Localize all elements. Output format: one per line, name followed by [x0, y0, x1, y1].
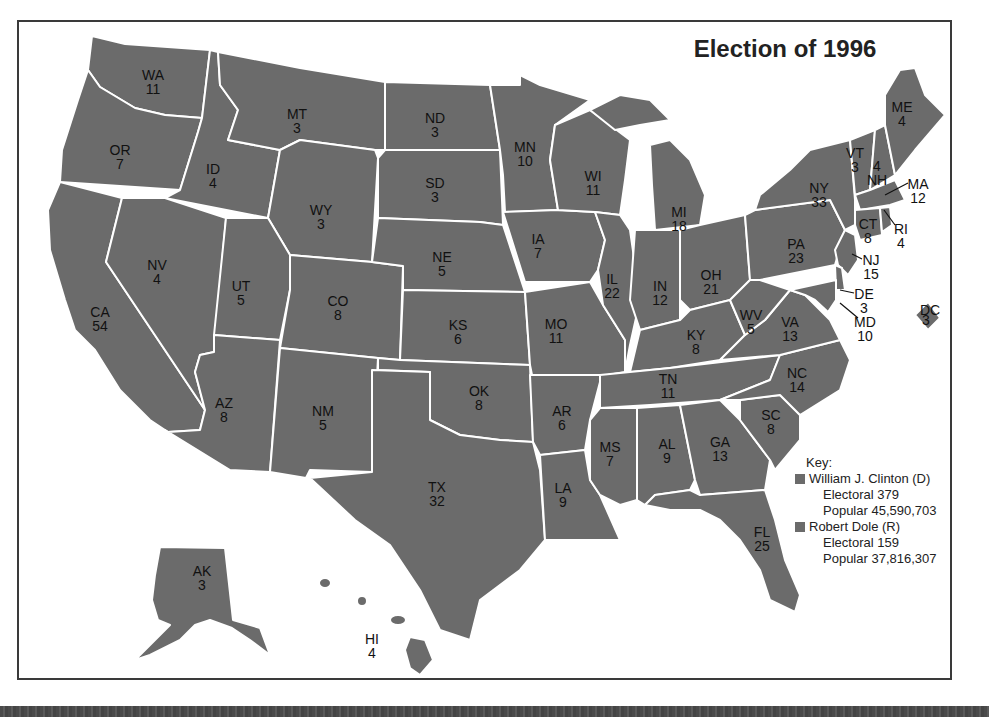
label-AK: AK3 — [193, 564, 212, 592]
state-HI-big-island[interactable] — [405, 637, 433, 675]
label-MI: MI18 — [671, 205, 687, 233]
legend: Key: William J. Clinton (D) Electoral 37… — [795, 455, 936, 567]
label-KS: KS6 — [449, 318, 468, 346]
legend-popular: Popular 45,590,703 — [795, 503, 936, 519]
state-MT[interactable] — [218, 52, 385, 150]
label-NM: NM5 — [312, 404, 334, 432]
label-MA: MA12 — [908, 177, 929, 205]
legend-candidate-name: Robert Dole (R) — [809, 519, 900, 535]
label-VA: VA13 — [781, 315, 799, 343]
label-DC-votes: 3 — [922, 313, 930, 327]
legend-popular: Popular 37,816,307 — [795, 551, 936, 567]
label-OR: OR7 — [110, 143, 131, 171]
legend-electoral: Electoral 379 — [795, 487, 936, 503]
label-IL: IL22 — [604, 272, 620, 300]
label-CO: CO8 — [328, 294, 349, 322]
leader-DE — [840, 290, 854, 293]
label-UT: UT5 — [232, 279, 251, 307]
label-WY: WY3 — [310, 203, 333, 231]
label-GA: GA13 — [710, 435, 730, 463]
state-FL[interactable] — [645, 490, 800, 612]
legend-heading: Key: — [795, 455, 936, 471]
label-ME: ME4 — [892, 100, 913, 128]
label-NV: NV4 — [147, 258, 166, 286]
label-LA: LA9 — [554, 481, 571, 509]
label-WI: WI11 — [584, 169, 601, 197]
state-WY[interactable] — [268, 140, 378, 262]
label-DE: DE3 — [854, 287, 873, 315]
label-NJ: NJ15 — [862, 253, 879, 281]
label-NY: NY33 — [809, 181, 828, 209]
label-ND: ND3 — [425, 111, 445, 139]
label-WA: WA11 — [142, 68, 164, 96]
label-MT: MT3 — [287, 107, 307, 135]
label-NH: 4NH — [867, 159, 887, 187]
dole-swatch-icon — [795, 522, 805, 532]
state-HI-maui[interactable] — [390, 615, 406, 625]
label-AZ: AZ8 — [215, 396, 233, 424]
state-HI-oahu[interactable] — [357, 596, 367, 606]
label-RI: RI4 — [894, 222, 908, 250]
map-title: Election of 1996 — [694, 35, 877, 63]
label-IN: IN12 — [652, 279, 668, 307]
label-ID: ID4 — [206, 162, 220, 190]
us-electoral-map — [0, 0, 989, 717]
label-SD: SD3 — [425, 176, 444, 204]
label-MN: MN10 — [514, 140, 536, 168]
label-WV: WV5 — [740, 308, 763, 336]
label-KY: KY8 — [687, 328, 706, 356]
label-VT: VT3 — [846, 146, 864, 174]
legend-electoral: Electoral 159 — [795, 535, 936, 551]
state-RI[interactable] — [880, 207, 892, 232]
label-OH: OH21 — [701, 268, 722, 296]
label-MD: MD10 — [854, 315, 876, 343]
legend-candidate-name: William J. Clinton (D) — [809, 471, 930, 487]
label-HI: HI4 — [365, 632, 379, 660]
legend-item-clinton: William J. Clinton (D) — [795, 471, 936, 487]
page-bottom-band — [0, 706, 989, 717]
label-CA: CA54 — [90, 305, 109, 333]
label-MO: MO11 — [545, 317, 568, 345]
state-HI-kauai[interactable] — [319, 578, 331, 588]
label-CT: CT8 — [859, 217, 878, 245]
label-PA: PA23 — [787, 237, 805, 265]
legend-item-dole: Robert Dole (R) — [795, 519, 936, 535]
label-OK: OK8 — [469, 384, 489, 412]
label-TN: TN11 — [659, 372, 678, 400]
state-UT[interactable] — [214, 218, 290, 340]
label-AL: AL9 — [658, 437, 675, 465]
label-IA: IA7 — [531, 232, 544, 260]
clinton-swatch-icon — [795, 474, 805, 484]
label-AR: AR6 — [552, 404, 571, 432]
label-TX: TX32 — [428, 480, 446, 508]
label-FL: FL25 — [754, 525, 770, 553]
label-SC: SC8 — [761, 408, 780, 436]
label-NC: NC14 — [787, 366, 807, 394]
label-NE: NE5 — [432, 250, 451, 278]
label-MS: MS7 — [600, 440, 621, 468]
